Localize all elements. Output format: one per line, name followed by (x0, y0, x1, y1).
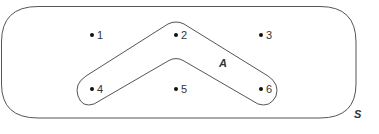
svg-text:6: 6 (266, 83, 272, 95)
point-3: 3 (259, 29, 272, 41)
svg-text:4: 4 (97, 83, 103, 95)
svg-text:5: 5 (181, 83, 187, 95)
point-5: 5 (174, 83, 187, 95)
point-4: 4 (90, 83, 103, 95)
universal-set-s-outline (2, 7, 357, 119)
point-6: 6 (259, 83, 272, 95)
point-2: 2 (174, 29, 187, 41)
universal-set-s-label: S (354, 108, 362, 120)
subset-a-label: A (218, 57, 227, 69)
point-1: 1 (90, 29, 103, 41)
svg-text:1: 1 (97, 29, 103, 41)
venn-diagram: 1 2 3 4 5 6 A S (0, 0, 379, 134)
svg-text:3: 3 (266, 29, 272, 41)
svg-text:2: 2 (181, 29, 187, 41)
